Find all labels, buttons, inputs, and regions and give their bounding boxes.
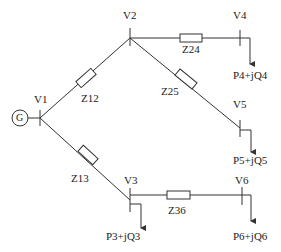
load-v5-arrow — [240, 130, 251, 152]
bus-label-v2: V2 — [123, 9, 136, 21]
bus-label-v5: V5 — [233, 98, 246, 110]
impedance-label-z12: Z12 — [81, 92, 99, 104]
impedance-z12-icon — [76, 68, 96, 87]
load-label-v6: P6+jQ6 — [233, 230, 267, 242]
generator-label: G — [16, 112, 23, 124]
impedance-label-z36: Z36 — [168, 204, 186, 216]
load-label-v5: P5+jQ5 — [233, 154, 267, 166]
bus-label-v6: V6 — [235, 174, 248, 186]
load-v3-arrow — [130, 204, 141, 228]
impedance-z36-icon — [167, 191, 190, 199]
impedance-label-z25: Z25 — [161, 85, 179, 97]
branch-z13 — [40, 118, 130, 200]
load-label-v4: P4+jQ4 — [233, 69, 267, 81]
load-label-v3: P3+jQ3 — [106, 230, 140, 242]
impedance-z24-icon — [180, 34, 202, 42]
bus-label-v4: V4 — [233, 9, 246, 21]
network-diagram — [0, 0, 281, 252]
impedance-label-z24: Z24 — [182, 43, 200, 55]
bus-label-v1: V1 — [34, 93, 47, 105]
impedance-label-z13: Z13 — [71, 172, 89, 184]
bus-label-v3: V3 — [124, 174, 137, 186]
